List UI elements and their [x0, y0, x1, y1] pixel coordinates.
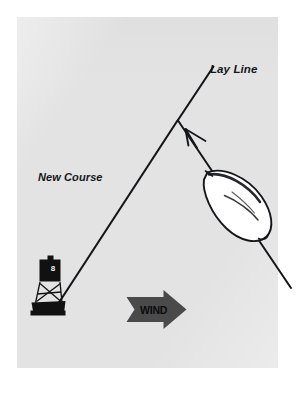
- buoy-base-skirt: [31, 311, 66, 316]
- new-course-label: New Course: [38, 171, 103, 183]
- buoy-top-knob: [48, 256, 54, 261]
- lay-line: [178, 67, 214, 121]
- new-course-line: [53, 121, 178, 313]
- diagram-page: Lay Line New Course WIND 8: [0, 0, 306, 408]
- buoy-lattice: [36, 282, 63, 303]
- sailboat-hull: [204, 171, 272, 241]
- lay-line-label: Lay Line: [210, 63, 257, 75]
- sailing-diagram: [0, 0, 306, 408]
- wind-label: WIND: [140, 304, 167, 316]
- buoy-number-label: 8: [48, 264, 58, 273]
- boat-heading-arrow: [186, 129, 206, 148]
